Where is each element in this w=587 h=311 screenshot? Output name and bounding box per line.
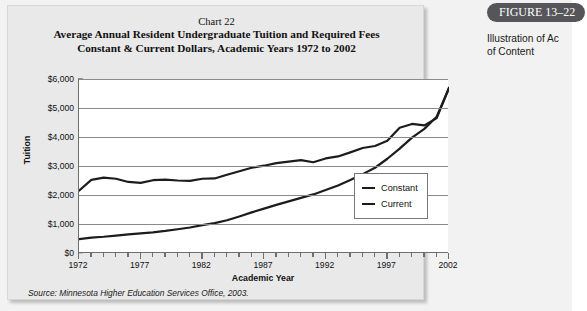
x-tick-mark xyxy=(312,253,313,257)
y-tick-label: $6,000 xyxy=(22,74,74,84)
x-axis-tick-labels: 1972197719821987199219972002 xyxy=(78,260,448,273)
x-tick-mark xyxy=(288,253,289,257)
x-tick-mark xyxy=(399,253,400,257)
x-tick-mark xyxy=(177,253,178,257)
x-tick-mark xyxy=(325,253,326,259)
x-tick-mark xyxy=(362,253,363,257)
x-tick-mark xyxy=(263,253,264,259)
y-tick-label: $2,000 xyxy=(22,190,74,200)
x-tick-mark xyxy=(152,253,153,257)
figure-caption-line-2: of Content xyxy=(487,45,587,58)
legend-swatch-icon xyxy=(362,187,375,190)
x-tick-mark xyxy=(448,253,449,259)
legend-item-constant: Constant xyxy=(362,180,418,196)
x-tick-mark xyxy=(238,253,239,257)
x-tick-mark xyxy=(386,253,387,259)
gridline xyxy=(79,79,448,80)
x-tick-mark xyxy=(78,253,79,259)
legend-item-current: Current xyxy=(362,196,418,212)
legend-swatch-icon xyxy=(362,203,375,206)
chart-title-line-2: Constant & Current Dollars, Academic Yea… xyxy=(8,42,425,56)
chart-legend: Constant Current xyxy=(354,173,428,219)
x-tick-mark xyxy=(423,253,424,257)
x-axis-title: Academic Year xyxy=(78,273,448,283)
y-axis-tick-labels: $0$1,000$2,000$3,000$4,000$5,000$6,000 xyxy=(16,79,74,253)
x-tick-mark xyxy=(337,253,338,257)
x-tick-mark xyxy=(115,253,116,257)
x-tick-label: 1992 xyxy=(315,260,334,270)
x-tick-label: 1997 xyxy=(377,260,396,270)
x-tick-label: 1972 xyxy=(68,260,87,270)
y-tick-label: $3,000 xyxy=(22,161,74,171)
source-note: Source: Minnesota Higher Education Servi… xyxy=(28,288,249,298)
x-tick-mark xyxy=(214,253,215,257)
x-tick-mark xyxy=(411,253,412,257)
gridline xyxy=(79,137,448,138)
gridline xyxy=(79,166,448,167)
gridline xyxy=(79,108,448,109)
x-tick-mark xyxy=(436,253,437,257)
x-tick-mark xyxy=(374,253,375,257)
x-tick-mark xyxy=(140,253,141,259)
legend-label-constant: Constant xyxy=(381,183,418,193)
chart-number: Chart 22 xyxy=(8,15,425,28)
x-tick-mark xyxy=(90,253,91,257)
chart-title-block: Chart 22 Average Annual Resident Undergr… xyxy=(8,15,425,55)
x-tick-label: 1982 xyxy=(192,260,211,270)
x-tick-label: 1987 xyxy=(253,260,272,270)
figure-caption: Illustration of Ac of Content xyxy=(487,32,587,58)
x-axis-ticks xyxy=(78,253,448,260)
y-tick-label: $5,000 xyxy=(22,103,74,113)
y-tick-label: $1,000 xyxy=(22,219,74,229)
plot-wrapper xyxy=(78,79,448,253)
figure-caption-line-1: Illustration of Ac xyxy=(487,32,587,45)
figure-card: Chart 22 Average Annual Resident Undergr… xyxy=(7,5,424,300)
x-tick-mark xyxy=(103,253,104,257)
x-tick-label: 2002 xyxy=(438,260,457,270)
x-tick-mark xyxy=(127,253,128,257)
figure-banner: FIGURE 13–22 xyxy=(487,3,585,22)
x-tick-label: 1977 xyxy=(130,260,149,270)
gridline xyxy=(79,224,448,225)
x-tick-mark xyxy=(349,253,350,257)
x-tick-mark xyxy=(226,253,227,257)
x-tick-mark xyxy=(189,253,190,257)
plot-area xyxy=(78,79,448,253)
x-tick-mark xyxy=(275,253,276,257)
legend-label-current: Current xyxy=(381,199,412,209)
y-tick-label: $0 xyxy=(22,248,74,258)
y-tick-label: $4,000 xyxy=(22,132,74,142)
x-tick-mark xyxy=(300,253,301,257)
x-tick-mark xyxy=(251,253,252,257)
x-tick-mark xyxy=(201,253,202,259)
chart-title-line-1: Average Annual Resident Undergraduate Tu… xyxy=(8,28,425,42)
x-tick-mark xyxy=(164,253,165,257)
